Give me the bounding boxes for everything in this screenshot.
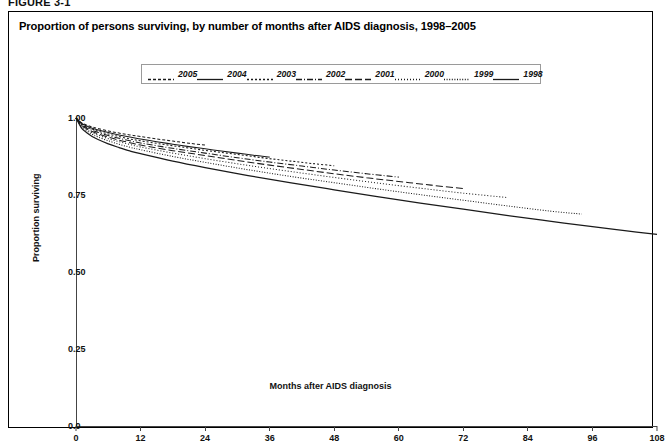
x-axis-tick: 84 [523,426,533,443]
series-line-1998 [76,118,657,234]
x-axis-tick: 0 [73,426,78,443]
x-tick-label: 60 [394,433,404,443]
x-tick-mark [334,426,335,431]
x-tick-label: 36 [265,433,275,443]
series-line-2000 [76,118,506,197]
legend-label: 2001 [375,69,394,79]
chart-panel: Proportion of persons surviving, by numb… [8,11,653,428]
y-tick-label: 0.75 [68,190,86,200]
x-axis-line [76,426,657,427]
x-tick-label: 96 [587,433,597,443]
x-axis-tick: 24 [200,426,210,443]
legend-swatch-icon [296,70,322,79]
series-line-2002 [76,118,399,177]
plot-area: 0.00.250.500.751.0001224364860728496108 [68,107,657,426]
legend-swatch-icon [247,70,273,79]
x-tick-mark [657,426,658,431]
legend-swatch-icon [493,70,519,79]
legend-swatch-icon [345,70,371,79]
x-tick-label: 108 [649,433,664,443]
chart-legend: 20052004200320022001200019991998 [141,64,541,84]
chart-title: Proportion of persons surviving, by numb… [19,20,476,32]
legend-swatch-icon [197,70,223,79]
x-tick-mark [592,426,593,431]
x-tick-mark [269,426,270,431]
x-tick-mark [205,426,206,431]
y-axis-label: Proportion surviving [31,173,41,262]
figure-label: FIGURE 3-1 [8,0,71,8]
legend-item-1999: 1999 [444,69,493,79]
legend-item-2002: 2002 [296,69,345,79]
x-tick-mark [527,426,528,431]
y-tick-label: 0.25 [68,344,86,354]
legend-label: 2005 [178,69,197,79]
legend-label: 2000 [425,69,444,79]
series-line-2001 [76,118,463,189]
x-tick-label: 0 [73,433,78,443]
legend-swatch-icon [395,70,421,79]
legend-label: 2002 [326,69,345,79]
legend-swatch-icon [444,70,470,79]
x-tick-label: 72 [458,433,468,443]
x-tick-mark [75,426,76,431]
legend-label: 1999 [474,69,493,79]
series-line-1999 [76,118,582,214]
x-tick-mark [140,426,141,431]
x-axis-tick: 96 [587,426,597,443]
x-tick-mark [463,426,464,431]
x-axis-label: Months after AIDS diagnosis [9,381,652,391]
x-axis-tick: 48 [329,426,339,443]
legend-item-1998: 1998 [493,69,542,79]
legend-item-2005: 2005 [148,69,197,79]
x-axis-tick: 108 [649,426,664,443]
x-tick-mark [398,426,399,431]
legend-label: 1998 [523,69,542,79]
legend-item-2000: 2000 [395,69,444,79]
y-tick-label: 1.00 [68,113,86,123]
x-axis-tick: 36 [265,426,275,443]
y-tick-label: 0.50 [68,267,86,277]
legend-item-2004: 2004 [197,69,246,79]
legend-label: 2004 [227,69,246,79]
legend-item-2001: 2001 [345,69,394,79]
x-axis-tick: 60 [394,426,404,443]
x-axis-tick: 72 [458,426,468,443]
x-axis-tick: 12 [136,426,146,443]
legend-label: 2003 [277,69,296,79]
x-tick-label: 84 [523,433,533,443]
x-tick-label: 24 [200,433,210,443]
x-tick-label: 12 [136,433,146,443]
x-tick-label: 48 [329,433,339,443]
legend-swatch-icon [148,70,174,79]
survival-curves [68,107,657,426]
legend-item-2003: 2003 [247,69,296,79]
